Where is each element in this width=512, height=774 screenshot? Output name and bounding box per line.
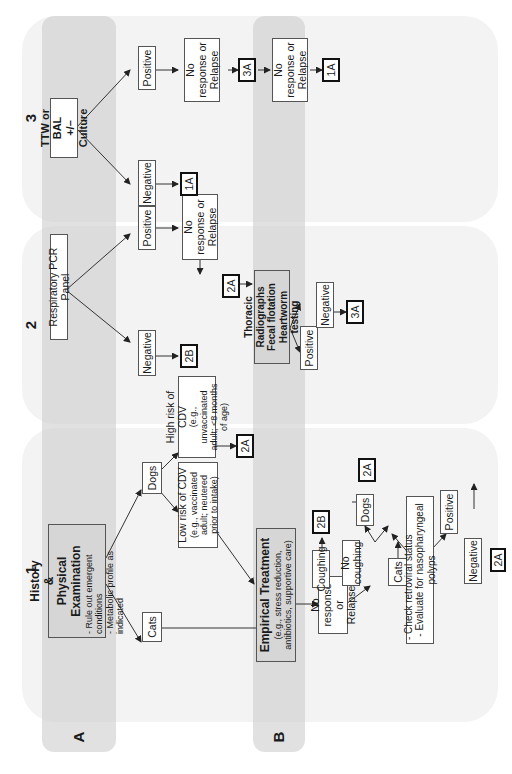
empirical-treatment-box: Empirical Treatment (e.g., stress reduct… — [256, 528, 296, 662]
thoracic-radiographs-box: Thoracic Radiographs Fecal flotation Hea… — [254, 270, 290, 364]
ref-2b-coughing: 2B — [312, 510, 330, 534]
ref-2a-dogs: 2A — [358, 458, 376, 482]
ref-1a-ttw-negative: 1A — [180, 172, 198, 196]
low-risk-cdv-box: Low risk of CDV (e.g., vaccinated adult;… — [178, 462, 218, 548]
ref-3a-ttw: 3A — [238, 58, 256, 82]
no-coughing-box: No coughing — [342, 540, 360, 586]
high-risk-cdv-box: High risk of CDV (e.g., unvaccinated adu… — [178, 376, 216, 458]
ttw-no-response-box-1: No response or Relapse — [184, 38, 220, 102]
nc-dogs-box: Dogs — [356, 494, 374, 526]
pcr-negative-box: Negative — [138, 330, 156, 376]
cats-box: Cats — [142, 612, 162, 642]
ref-2a-pcr: 2A — [222, 274, 240, 298]
ttw-bal-culture-box: TTW or BAL +/– Culture — [50, 98, 78, 158]
pcr-no-response-box: No response or Relapse — [182, 194, 218, 260]
polyps-negative-box: Negative — [464, 538, 482, 584]
ref-2b-pcr-negative: 2B — [180, 344, 198, 368]
history-physical-exam-box: History & Physical Examination - Rule ou… — [48, 524, 106, 638]
diagnostic-flowchart: A B 1 2 3 — [0, 0, 512, 774]
thoracic-positive-box: Positive — [300, 326, 318, 370]
ttw-negative-box: Negative — [138, 160, 156, 206]
respiratory-pcr-panel-box: Respiratory PCR Panel — [50, 234, 68, 340]
ttw-no-response-box-2: No response or Relapse — [272, 38, 308, 102]
polyps-positive-box: Positive — [440, 490, 458, 534]
dogs-box: Dogs — [142, 462, 162, 494]
ref-2a-polyps-negative: 2A — [490, 548, 506, 572]
coughing-box: Coughing — [312, 550, 330, 588]
ref-2a-high-risk: 2A — [236, 434, 254, 458]
pcr-positive-box: Positive — [138, 206, 156, 250]
ref-3a-thoracic: 3A — [346, 300, 364, 324]
ref-1a-final: 1A — [322, 58, 340, 82]
retroviral-polyps-box: - Check retroviral status - Evaluate for… — [406, 496, 434, 644]
thoracic-negative-box: Negative — [316, 282, 334, 328]
ttw-positive-box: Positive — [138, 46, 156, 90]
